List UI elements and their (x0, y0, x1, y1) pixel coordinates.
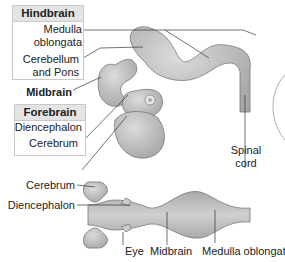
medulla-line2: oblongata (24, 36, 82, 49)
diencephalon-label-bottom: Diencephalon (4, 199, 75, 212)
cerebellum-pons-label: Cerebellum and Pons (14, 53, 79, 79)
diencephalon-label-top: Diencephalon (14, 121, 82, 134)
eye-label: Eye (125, 245, 144, 258)
spinal-cord-label: Spinal cord (230, 144, 262, 170)
cerebrum-label-top: Cerebrum (14, 137, 78, 150)
forebrain-title: Forebrain (15, 105, 85, 121)
medulla-label-bottom: Medulla oblongata (202, 245, 285, 258)
medulla-line1: Medulla (24, 23, 82, 36)
spinal-line2: cord (230, 157, 262, 170)
medulla-oblongata-label: Medulla oblongata (24, 23, 82, 49)
cerebellum-line1: Cerebellum (14, 53, 79, 66)
midbrain-label: Midbrain (20, 86, 72, 99)
midbrain-label-bottom: Midbrain (150, 245, 192, 258)
cerebellum-line2: and Pons (14, 66, 79, 79)
spinal-line1: Spinal (230, 144, 262, 157)
hindbrain-title: Hindbrain (13, 6, 83, 22)
cerebrum-label-bottom: Cerebrum (10, 179, 75, 192)
top-brain-tube (98, 27, 250, 158)
